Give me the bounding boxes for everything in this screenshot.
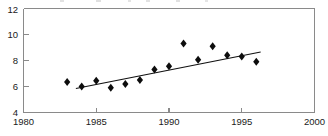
x-tick-label: 1990 [158,116,179,127]
data-point-group [64,40,259,92]
data-point [195,56,201,64]
y-tick-label: 10 [7,29,18,40]
data-point [239,53,245,61]
y-tick-labels: 4 6 8 10 12 [7,4,18,118]
x-tick-label: 1995 [231,116,252,127]
y-tick-marks [24,9,29,113]
x-tick-marks [24,108,315,113]
data-point [64,78,70,86]
trend-line [76,52,261,88]
data-point [180,40,186,48]
x-tick-label: 2000 [304,116,325,127]
chart-container: 4 6 8 10 12 1980 1985 1990 1995 2000 [0,0,328,136]
x-tick-label: 1985 [86,116,107,127]
plot-frame [24,9,315,113]
cropped-title-remnant [60,0,208,2]
x-tick-labels: 1980 1985 1990 1995 2000 [13,116,325,127]
data-point [253,58,259,66]
x-tick-label: 1980 [13,116,34,127]
y-tick-label: 12 [7,4,18,15]
data-point [108,84,114,92]
scatter-plot: 4 6 8 10 12 1980 1985 1990 1995 2000 [0,0,328,136]
data-point [79,83,85,91]
data-point [210,42,216,50]
data-point [122,80,128,88]
data-point [137,76,143,84]
y-tick-label: 6 [13,81,18,92]
y-tick-label: 8 [13,55,18,66]
